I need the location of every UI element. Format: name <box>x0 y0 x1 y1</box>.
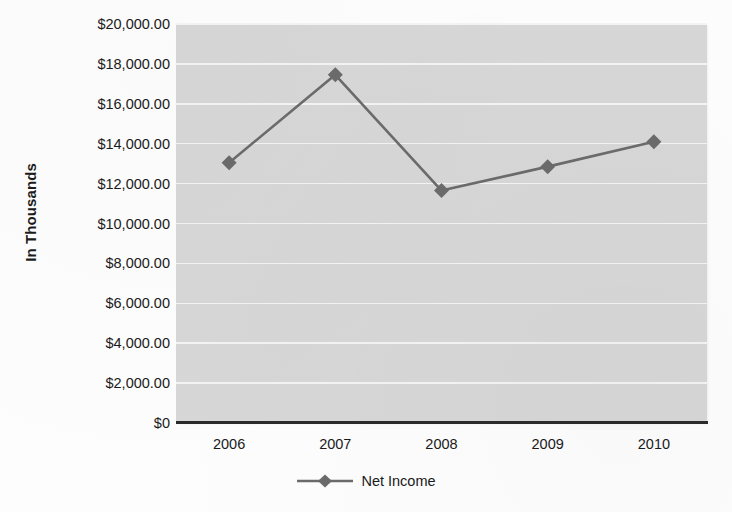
y-axis-tick-label: $10,000.00 <box>46 216 170 232</box>
y-axis-title-text: In Thousands <box>22 163 39 262</box>
legend-label-net-income: Net Income <box>361 473 435 489</box>
data-point-marker <box>646 134 661 149</box>
x-axis-line <box>176 421 708 424</box>
legend-marker-icon <box>296 473 354 489</box>
y-axis-tick-label: $14,000.00 <box>46 136 170 152</box>
y-axis-tick-label: $16,000.00 <box>46 96 170 112</box>
series-line <box>229 75 654 191</box>
x-axis-tick-label: 2007 <box>319 436 351 452</box>
data-point-marker <box>540 159 555 174</box>
x-axis-tick-labels: 20062007200820092010 <box>176 436 707 462</box>
y-axis-tick-label: $20,000.00 <box>46 16 170 32</box>
plot-area <box>176 24 707 423</box>
x-axis-tick-label: 2008 <box>425 436 457 452</box>
y-axis-tick-label: $18,000.00 <box>46 56 170 72</box>
x-axis-tick-label: 2006 <box>213 436 245 452</box>
series-net-income <box>176 24 707 423</box>
y-axis-tick-label: $12,000.00 <box>46 176 170 192</box>
x-axis-tick-label: 2010 <box>638 436 670 452</box>
y-axis-tick-label: $8,000.00 <box>46 255 170 271</box>
y-axis-tick-label: $4,000.00 <box>46 335 170 351</box>
y-axis-tick-label: $2,000.00 <box>46 375 170 391</box>
x-axis-tick-label: 2009 <box>532 436 564 452</box>
line-chart: In Thousands $0$2,000.00$4,000.00$6,000.… <box>0 0 732 512</box>
y-axis-tick-label: $0 <box>46 415 170 431</box>
y-axis-tick-label: $6,000.00 <box>46 295 170 311</box>
legend: Net Income <box>0 473 732 489</box>
y-axis-tick-labels: $0$2,000.00$4,000.00$6,000.00$8,000.00$1… <box>46 0 170 440</box>
